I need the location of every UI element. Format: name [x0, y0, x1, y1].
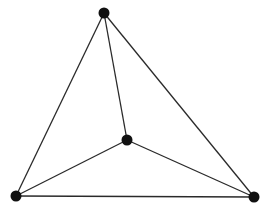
edge-top-center	[104, 13, 127, 140]
edge-bottom-left-bottom-right	[16, 196, 254, 197]
edge-top-bottom-right	[104, 13, 254, 197]
edges-group	[16, 13, 254, 197]
node-center	[122, 135, 133, 146]
nodes-group	[11, 8, 260, 203]
edge-center-bottom-left	[16, 140, 127, 196]
edge-top-bottom-left	[16, 13, 104, 196]
node-bottom-right	[249, 192, 260, 203]
node-top	[99, 8, 110, 19]
edge-center-bottom-right	[127, 140, 254, 197]
k4-graph-diagram	[0, 0, 276, 210]
node-bottom-left	[11, 191, 22, 202]
